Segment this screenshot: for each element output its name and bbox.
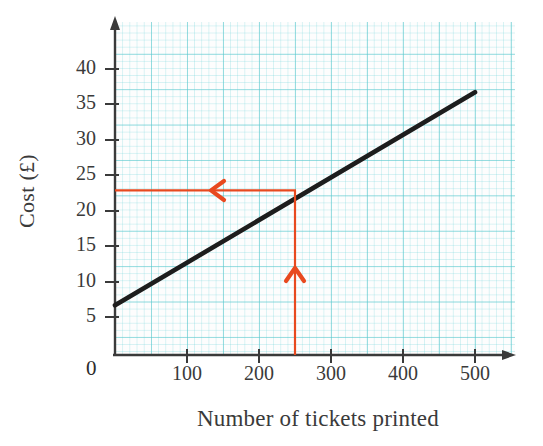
x-tick-label-100: 100 — [152, 362, 222, 385]
y-axis-ticks — [105, 69, 119, 317]
x-tick-label-300: 300 — [296, 362, 366, 385]
origin-label: 0 — [86, 356, 97, 381]
annotation-reading-horizontal — [115, 181, 296, 200]
y-tick-label-30: 30 — [52, 127, 96, 150]
y-axis-title: Cost (£) — [14, 126, 40, 256]
x-tick-label-500: 500 — [440, 362, 510, 385]
y-tick-label-25: 25 — [52, 162, 96, 185]
x-tick-label-400: 400 — [368, 362, 438, 385]
y-tick-label-10: 10 — [52, 269, 96, 292]
y-tick-label-20: 20 — [52, 198, 96, 221]
y-tick-label-5: 5 — [52, 304, 96, 327]
annotation-reading-vertical — [286, 190, 304, 355]
y-tick-label-35: 35 — [52, 91, 96, 114]
y-tick-label-15: 15 — [52, 233, 96, 256]
x-tick-label-200: 200 — [224, 362, 294, 385]
y-tick-label-40: 40 — [52, 56, 96, 79]
x-axis-title: Number of tickets printed — [118, 406, 518, 432]
chart-figure: 40 35 30 25 20 15 10 5 100 200 300 400 5… — [0, 0, 543, 446]
